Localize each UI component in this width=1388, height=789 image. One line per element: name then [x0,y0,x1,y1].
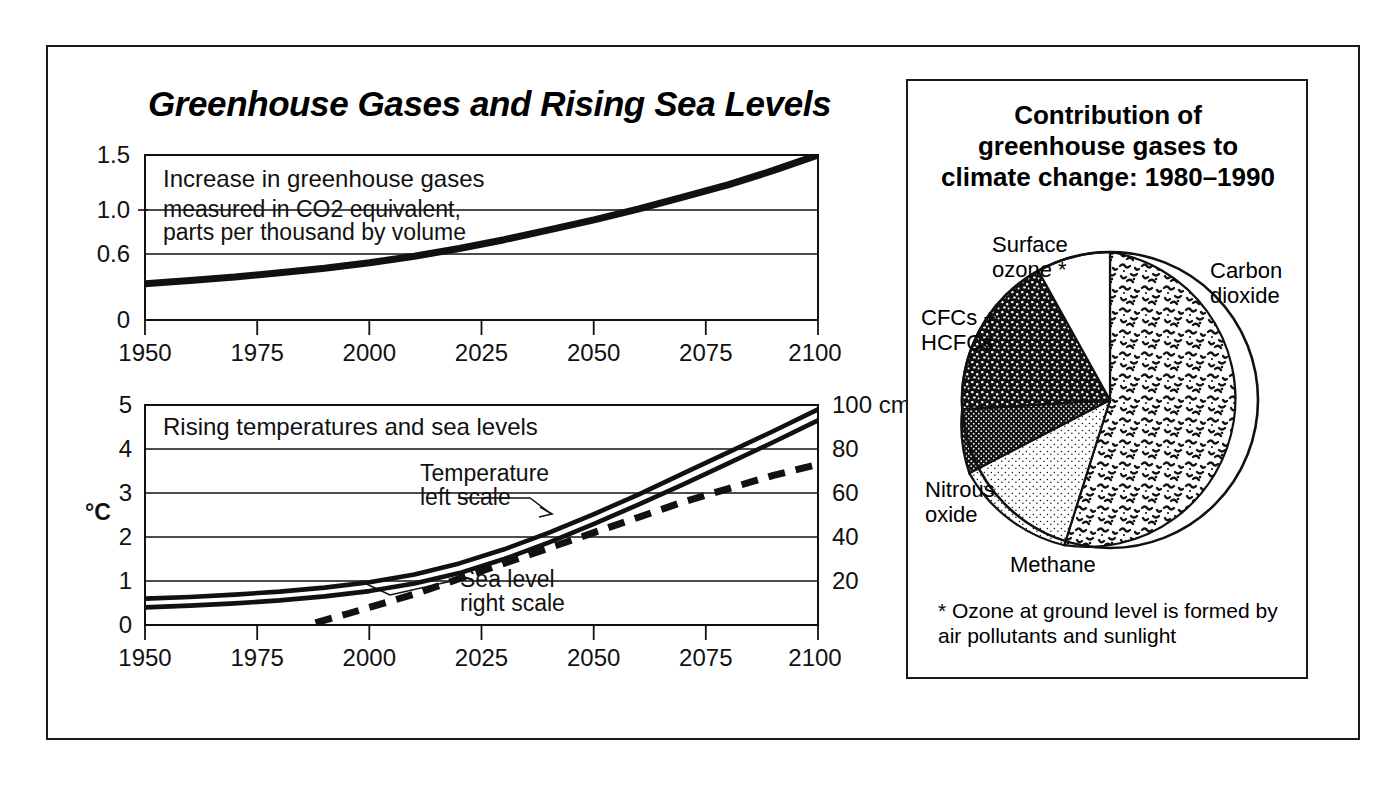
temperature-sea-level-chart: 5 4 3 2 1 0 °C 100 cm 80 60 40 20 1950 1… [60,385,940,670]
pie-label-ozone-line1: Surface [992,232,1102,257]
ts-ytick-4: 4 [119,435,132,462]
ts-y2tick-80: 80 [832,435,859,462]
ts-annotation-sealevel-line2: right scale [460,590,565,616]
ts-ytick-0: 0 [119,611,132,638]
gg-xtick-2025: 2025 [455,339,508,366]
ts-annotation-temperature-line1: Temperature [420,460,549,486]
pie-label-co2-line1: Carbon [1210,258,1320,283]
ts-caption-title: Rising temperatures and sea levels [163,413,538,440]
pie-label-co2-line2: dioxide [1210,283,1320,308]
pie-label-surface-ozone: Surface ozone * [992,232,1102,282]
pie-label-cfc-line1: CFCs + [921,305,1021,330]
pie-label-methane: Methane [1010,552,1130,577]
pie-footnote: * Ozone at ground level is formed by air… [938,598,1288,648]
ts-xtick-2050: 2050 [567,644,620,670]
ts-xtick-2000: 2000 [343,644,396,670]
pie-label-nitrous-oxide: Nitrous oxide [925,477,1025,527]
ts-ytick-2: 2 [119,523,132,550]
ts-y2tick-100: 100 cm [832,391,911,418]
pie-title-line2: greenhouse gases to [912,131,1304,162]
ts-annotation-sealevel-line1: Sea level [460,566,555,592]
pie-title-line3: climate change: 1980–1990 [912,162,1304,193]
pie-chart-title: Contribution of greenhouse gases to clim… [912,100,1304,193]
pie-label-carbon-dioxide: Carbon dioxide [1210,258,1320,308]
pie-label-ozone-line2: ozone * [992,257,1102,282]
gg-ytick-1.0: 1.0 [97,196,130,223]
gg-xticks [145,320,818,335]
ts-xtick-2025: 2025 [455,644,508,670]
ts-xtick-2100: 2100 [788,644,841,670]
ts-xtick-2075: 2075 [679,644,732,670]
pie-label-cfcs-hcfcs: CFCs + HCFCs [921,305,1021,355]
ts-left-axis-unit: °C [85,499,111,525]
pie-footnote-line1: * Ozone at ground level is formed by [938,598,1288,623]
ts-y2tick-40: 40 [832,523,859,550]
pie-label-n2o-line1: Nitrous [925,477,1025,502]
ts-xtick-1975: 1975 [231,644,284,670]
gg-caption-sub2: parts per thousand by volume [163,219,466,245]
gg-ytick-0: 0 [117,306,130,333]
gg-xtick-2050: 2050 [567,339,620,366]
ts-y2tick-20: 20 [832,567,859,594]
greenhouse-gas-chart: 1.5 1.0 0.6 0 1950 1975 2000 2025 2050 2… [60,130,850,370]
pie-label-cfc-line2: HCFCs [921,330,1021,355]
pie-title-line1: Contribution of [912,100,1304,131]
gg-xtick-1975: 1975 [231,339,284,366]
figure-root: Greenhouse Gases and Rising Sea Levels 1… [0,0,1388,789]
ts-xticks [145,625,818,640]
gg-xtick-2100: 2100 [788,339,841,366]
gg-ytick-0.6: 0.6 [97,240,130,267]
ts-ytick-3: 3 [119,479,132,506]
ts-ytick-5: 5 [119,391,132,418]
gg-xtick-1950: 1950 [118,339,171,366]
ts-xtick-1950: 1950 [118,644,171,670]
ts-y2tick-60: 60 [832,479,859,506]
pie-footnote-line2: air pollutants and sunlight [938,623,1288,648]
figure-title: Greenhouse Gases and Rising Sea Levels [148,84,908,124]
gg-caption-title: Increase in greenhouse gases [163,165,485,192]
ts-annotation-temperature-line2: left scale [420,484,511,510]
gg-ytick-1.5: 1.5 [97,141,130,168]
pie-label-n2o-line2: oxide [925,502,1025,527]
gg-xtick-2075: 2075 [679,339,732,366]
ts-ytick-1: 1 [119,567,132,594]
gg-xtick-2000: 2000 [343,339,396,366]
